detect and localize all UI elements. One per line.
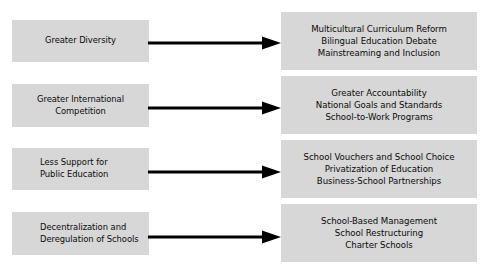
effect-box-3-lines: School Vouchers and School Choice Privat… <box>281 151 477 188</box>
effect-box-1-line-2: Bilingual Education Debate <box>287 35 471 47</box>
arrow-3 <box>148 165 281 179</box>
diagram-canvas: Greater Diversity Multicultural Curricul… <box>0 0 491 274</box>
cause-box-2-line-1: Greater International <box>12 94 149 106</box>
cause-box-2[interactable]: Greater International Competition <box>12 84 149 127</box>
effect-box-4-line-1: School-Based Management <box>287 215 471 227</box>
effect-box-4-line-2: School Restructuring <box>287 227 471 239</box>
cause-box-4-lines: Decentralization and Deregulation of Sch… <box>12 222 149 245</box>
effect-box-1-lines: Multicultural Curriculum Reform Bilingua… <box>281 23 477 60</box>
cause-box-4-line-1: Decentralization and <box>40 222 149 234</box>
cause-box-4[interactable]: Decentralization and Deregulation of Sch… <box>12 212 149 255</box>
effect-box-1-line-3: Mainstreaming and Inclusion <box>287 47 471 59</box>
effect-box-3-line-2: Privatization of Education <box>287 163 471 175</box>
arrow-2 <box>148 101 281 115</box>
effect-box-2-line-1: Greater Accountability <box>287 87 471 99</box>
cause-box-3-lines: Less Support for Public Education <box>12 157 149 180</box>
effect-box-2-lines: Greater Accountability National Goals an… <box>281 87 477 124</box>
arrow-1 <box>148 36 281 50</box>
effect-box-2-line-2: National Goals and Standards <box>287 99 471 111</box>
cause-box-4-line-2: Deregulation of Schools <box>40 234 149 246</box>
cause-box-3-line-1: Less Support for <box>40 157 149 169</box>
cause-box-1-lines: Greater Diversity <box>12 35 149 47</box>
effect-box-2-line-3: School-to-Work Programs <box>287 111 471 123</box>
effect-box-2[interactable]: Greater Accountability National Goals an… <box>281 76 477 134</box>
cause-box-2-line-2: Competition <box>12 106 149 118</box>
cause-box-3-line-2: Public Education <box>40 169 149 181</box>
effect-box-4-lines: School-Based Management School Restructu… <box>281 215 477 252</box>
effect-box-4-line-3: Charter Schools <box>287 239 471 251</box>
cause-box-1-line-1: Greater Diversity <box>12 35 149 47</box>
cause-box-1[interactable]: Greater Diversity <box>12 20 149 62</box>
effect-box-3[interactable]: School Vouchers and School Choice Privat… <box>281 140 477 198</box>
arrow-4 <box>148 230 281 244</box>
effect-box-3-line-3: Business-School Partnerships <box>287 175 471 187</box>
cause-box-3[interactable]: Less Support for Public Education <box>12 148 149 190</box>
effect-box-3-line-1: School Vouchers and School Choice <box>287 151 471 163</box>
effect-box-4[interactable]: School-Based Management School Restructu… <box>281 204 477 262</box>
effect-box-1-line-1: Multicultural Curriculum Reform <box>287 23 471 35</box>
effect-box-1[interactable]: Multicultural Curriculum Reform Bilingua… <box>281 12 477 70</box>
cause-box-2-lines: Greater International Competition <box>12 94 149 117</box>
